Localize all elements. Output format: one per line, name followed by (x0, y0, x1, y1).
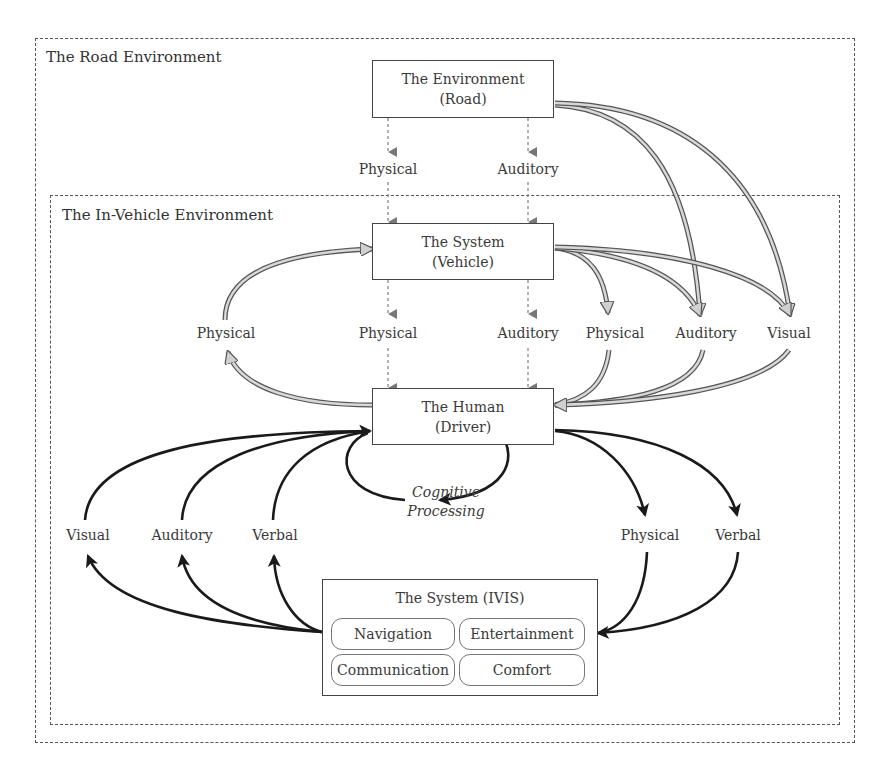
label-vehicle-auditory: Auditory (497, 325, 558, 341)
label-right-physical: Physical (586, 325, 645, 341)
cognitive-line1: Cognitive (412, 484, 480, 500)
human-driver-node: The Human (Driver) (372, 388, 554, 445)
label-right-auditory: Auditory (675, 325, 736, 341)
ivis-module-entertainment: Entertainment (459, 618, 585, 650)
driver-node-subtitle: (Driver) (435, 417, 491, 437)
ivis-module-navigation: Navigation (331, 618, 455, 650)
label-driver-physical: Physical (621, 527, 680, 543)
label-right-visual: Visual (767, 325, 810, 341)
ivis-title: The System (IVIS) (323, 590, 597, 606)
label-road-auditory: Auditory (497, 161, 558, 177)
label-left-physical: Physical (197, 325, 256, 341)
vehicle-node-subtitle: (Vehicle) (432, 252, 494, 272)
label-cognitive-processing: Cognitive Processing (407, 483, 485, 521)
cognitive-line2: Processing (407, 503, 485, 519)
environment-node-subtitle: (Road) (439, 89, 486, 109)
label-road-physical: Physical (359, 161, 418, 177)
label-vehicle-physical: Physical (359, 325, 418, 341)
ivis-system-node: The System (IVIS) Navigation Entertainme… (322, 579, 598, 696)
label-ivis-verbal: Verbal (252, 527, 298, 543)
environment-node-title: The Environment (401, 69, 524, 89)
ivis-module-comfort: Comfort (459, 654, 585, 686)
vehicle-node-title: The System (422, 232, 505, 252)
label-ivis-auditory: Auditory (151, 527, 212, 543)
ivis-module-communication: Communication (331, 654, 455, 686)
driver-node-title: The Human (422, 397, 505, 417)
vehicle-system-node: The System (Vehicle) (372, 223, 554, 280)
environment-road-node: The Environment (Road) (372, 60, 554, 118)
label-driver-verbal: Verbal (715, 527, 761, 543)
label-ivis-visual: Visual (66, 527, 109, 543)
